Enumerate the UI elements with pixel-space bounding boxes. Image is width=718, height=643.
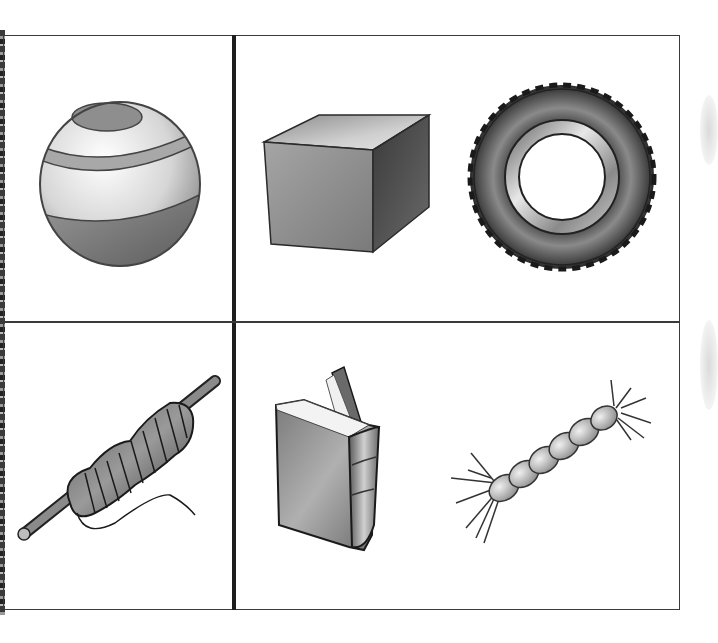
cell-bottom-right bbox=[236, 323, 680, 609]
scan-smudge bbox=[700, 320, 718, 410]
cell-bottom-left bbox=[5, 323, 232, 609]
rope-icon bbox=[446, 378, 651, 553]
tire-icon bbox=[464, 79, 660, 275]
thread-spool-icon bbox=[15, 373, 225, 548]
cell-top-left bbox=[5, 37, 232, 321]
scan-smudge bbox=[700, 95, 718, 165]
cell-top-right bbox=[236, 37, 680, 321]
striped-ball-icon bbox=[30, 92, 210, 272]
book-icon bbox=[274, 365, 414, 555]
cube-icon bbox=[261, 112, 436, 257]
